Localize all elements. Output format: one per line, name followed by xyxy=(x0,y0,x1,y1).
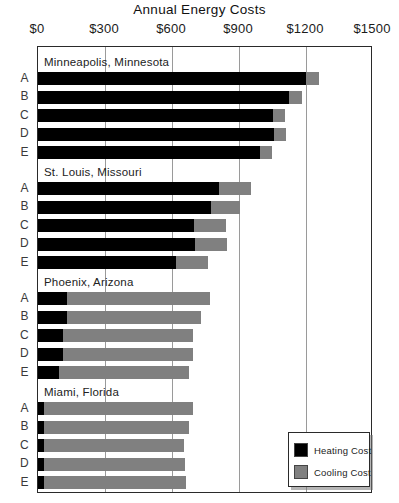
bar-segment-cooling xyxy=(195,238,226,251)
bar xyxy=(38,458,185,471)
legend-swatch-icon xyxy=(294,465,308,479)
bar xyxy=(38,109,285,122)
legend-label: Cooling Cost xyxy=(314,467,371,478)
row-label-D: D xyxy=(20,126,29,140)
legend-label: Heating Cost xyxy=(314,445,371,456)
plot-area: Minneapolis, MinnesotaSt. Louis, Missour… xyxy=(37,46,372,493)
bar-segment-heating xyxy=(38,219,194,232)
bar xyxy=(38,348,193,361)
bar-segment-cooling xyxy=(289,91,301,104)
bar-segment-cooling xyxy=(67,292,210,305)
x-axis-tick-labels: $0$300$600$900$1200$1500 xyxy=(0,21,399,39)
bar-segment-heating xyxy=(38,146,260,159)
bar xyxy=(38,292,210,305)
bar-segment-cooling xyxy=(63,329,193,342)
row-label-B: B xyxy=(21,419,29,433)
row-label-C: C xyxy=(20,438,29,452)
bar-segment-heating xyxy=(38,72,306,85)
row-label-E: E xyxy=(21,475,29,489)
bar-segment-heating xyxy=(38,348,63,361)
row-label-D: D xyxy=(20,456,29,470)
row-label-E: E xyxy=(21,145,29,159)
bar-segment-cooling xyxy=(274,128,286,141)
bar-segment-cooling xyxy=(44,402,193,415)
bar xyxy=(38,402,193,415)
bar-segment-cooling xyxy=(260,146,272,159)
bar xyxy=(38,201,240,214)
x-tick-label-900: $900 xyxy=(223,21,253,36)
energy-costs-chart: Annual Energy Costs $0$300$600$900$1200$… xyxy=(0,0,399,503)
bar-segment-heating xyxy=(38,128,274,141)
x-tick-label-300: $300 xyxy=(89,21,119,36)
row-label-D: D xyxy=(20,346,29,360)
row-label-B: B xyxy=(21,89,29,103)
row-label-column: ABCDEABCDEABCDEABCDE xyxy=(0,46,37,493)
bar xyxy=(38,146,273,159)
bar-segment-heating xyxy=(38,201,211,214)
row-label-A: A xyxy=(21,71,29,85)
gridline-1200 xyxy=(306,47,307,492)
bar xyxy=(38,72,319,85)
x-tick-label-1200: $1200 xyxy=(286,21,323,36)
row-label-C: C xyxy=(20,328,29,342)
row-label-E: E xyxy=(21,255,29,269)
group-header: Minneapolis, Minnesota xyxy=(44,56,169,68)
bar-segment-cooling xyxy=(211,201,240,214)
bar-segment-cooling xyxy=(219,182,251,195)
bar-segment-heating xyxy=(38,366,59,379)
row-label-A: A xyxy=(21,291,29,305)
bar-segment-cooling xyxy=(44,476,186,489)
bar-segment-cooling xyxy=(44,421,189,434)
bar xyxy=(38,311,201,324)
legend-swatch-icon xyxy=(294,443,308,457)
bar-segment-cooling xyxy=(63,348,193,361)
x-tick-label-0: $0 xyxy=(30,21,45,36)
bar-segment-heating xyxy=(38,109,273,122)
bar-segment-cooling xyxy=(273,109,285,122)
bar xyxy=(38,476,186,489)
row-label-D: D xyxy=(20,236,29,250)
row-label-A: A xyxy=(21,401,29,415)
group-header: St. Louis, Missouri xyxy=(44,166,142,178)
bar-segment-heating xyxy=(38,91,289,104)
legend-item: Cooling Cost xyxy=(294,464,371,480)
row-label-C: C xyxy=(20,108,29,122)
bar-segment-heating xyxy=(38,238,195,251)
bar-segment-cooling xyxy=(59,366,189,379)
row-label-E: E xyxy=(21,365,29,379)
group-header: Miami, Florida xyxy=(44,386,119,398)
chart-title: Annual Energy Costs xyxy=(0,2,399,17)
bar-segment-heating xyxy=(38,292,67,305)
bar-segment-heating xyxy=(38,182,219,195)
row-label-A: A xyxy=(21,181,29,195)
bar xyxy=(38,91,302,104)
bar xyxy=(38,219,226,232)
group-header: Phoenix, Arizona xyxy=(44,276,134,288)
x-tick-label-600: $600 xyxy=(156,21,186,36)
legend-item: Heating Cost xyxy=(294,442,371,458)
bar-segment-cooling xyxy=(194,219,225,232)
bar-segment-cooling xyxy=(44,458,185,471)
bar-segment-heating xyxy=(38,329,63,342)
bar-segment-cooling xyxy=(176,256,207,269)
bar-segment-heating xyxy=(38,256,176,269)
bar xyxy=(38,256,208,269)
bar xyxy=(38,329,193,342)
bar xyxy=(38,128,286,141)
bar-segment-heating xyxy=(38,311,67,324)
x-tick-label-1500: $1500 xyxy=(353,21,390,36)
bar xyxy=(38,182,251,195)
bar-segment-cooling xyxy=(44,439,184,452)
bar xyxy=(38,439,184,452)
bar-segment-cooling xyxy=(67,311,201,324)
bar xyxy=(38,421,189,434)
bar xyxy=(38,238,227,251)
legend: Heating CostCooling Cost xyxy=(288,432,370,487)
row-label-B: B xyxy=(21,309,29,323)
row-label-C: C xyxy=(20,218,29,232)
bar xyxy=(38,366,189,379)
row-label-B: B xyxy=(21,199,29,213)
bar-segment-cooling xyxy=(306,72,319,85)
